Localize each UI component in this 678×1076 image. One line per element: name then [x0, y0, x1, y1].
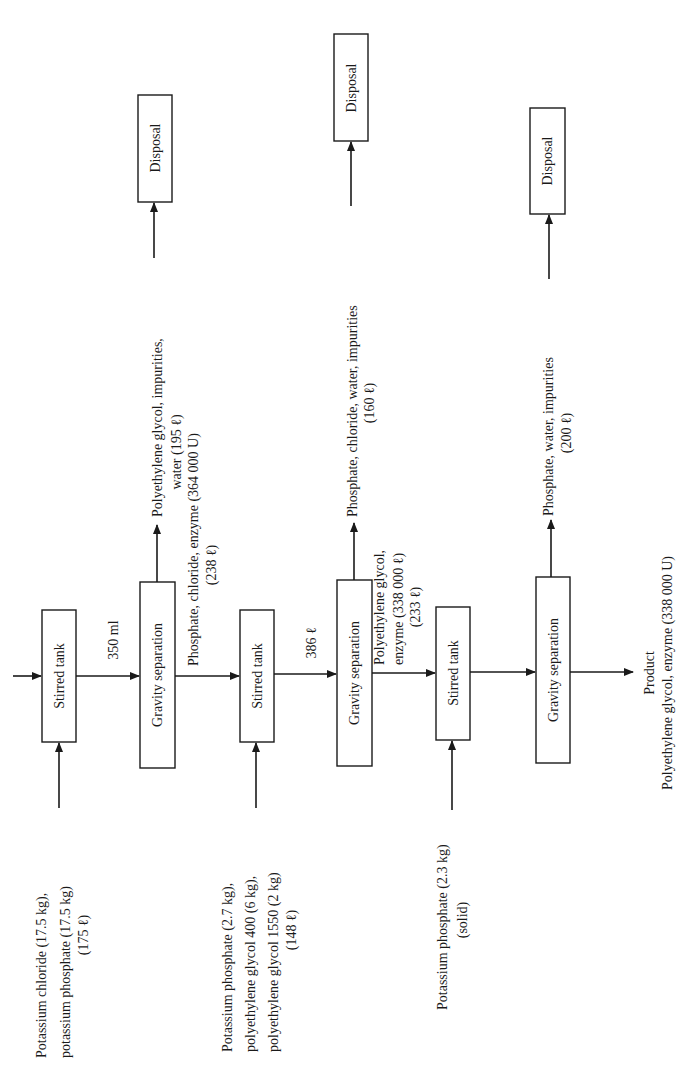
stream-233-line-2: enzyme (338 000 ℓ)	[391, 553, 407, 665]
gravity-separation-2: Gravity separation	[337, 580, 372, 766]
stirred-tank-1-label: Stirred tank	[52, 643, 67, 709]
feed-label-3: Potassium phosphate (2.3 kg) (solid)	[435, 844, 471, 1010]
waste-3-line-2: (200 ℓ)	[559, 412, 575, 453]
gravity-separation-2-label: Gravity separation	[347, 621, 362, 725]
stream-233-line-3: (233 ℓ)	[408, 586, 424, 627]
feed-1-line-3: (175 ℓ)	[76, 914, 92, 955]
process-flow-diagram: Stirred tank Gravity separation Stirred …	[0, 0, 678, 1076]
product-label: Product Polyethylene glycol, enzyme (338…	[642, 556, 676, 790]
stream-label-386l: 386 ℓ	[304, 627, 319, 659]
waste-label-2: Phosphate, chloride, water, impurities (…	[345, 305, 378, 517]
disposal-2-label: Disposal	[344, 63, 359, 112]
gravity-separation-3: Gravity separation	[536, 577, 570, 763]
feed-2-line-3: polyethylene glycol 1550 (2 kg)	[266, 872, 282, 1052]
gravity-separation-1: Gravity separation	[140, 582, 175, 768]
disposal-3: Disposal	[530, 108, 565, 214]
stream-238-line-2: (238 ℓ)	[204, 544, 220, 585]
disposal-2: Disposal	[334, 34, 368, 141]
product-title: Product	[642, 651, 657, 695]
stirred-tank-3: Stirred tank	[436, 607, 470, 740]
waste-label-3: Phosphate, water, impurities (200 ℓ)	[541, 357, 575, 516]
waste-1-line-1: Polyethylene glycol, impurities,	[150, 338, 165, 517]
feed-1-line-2: potassium phosphate (17.5 kg)	[58, 886, 74, 1058]
waste-label-1: Polyethylene glycol, impurities, water (…	[150, 338, 185, 517]
waste-2-line-2: (160 ℓ)	[362, 382, 378, 423]
feed-2-line-4: (148 ℓ)	[284, 909, 300, 950]
stream-238-line-1: Phosphate, chloride, enzyme (364 000 U)	[186, 433, 202, 666]
feed-label-2: Potassium phosphate (2.7 kg), polyethyle…	[220, 872, 300, 1052]
stirred-tank-2: Stirred tank	[240, 610, 274, 742]
disposal-3-label: Disposal	[540, 136, 555, 185]
stream-label-238l: Phosphate, chloride, enzyme (364 000 U) …	[186, 433, 220, 666]
feed-3-line-1: Potassium phosphate (2.3 kg)	[435, 844, 451, 1010]
disposal-1-label: Disposal	[148, 123, 163, 172]
stirred-tank-1: Stirred tank	[42, 610, 76, 742]
feed-2-line-1: Potassium phosphate (2.7 kg),	[220, 883, 236, 1052]
feed-2-line-2: polyethylene glycol 400 (6 kg),	[243, 876, 259, 1052]
feed-1-line-1: Potassium chloride (17.5 kg),	[34, 893, 50, 1058]
waste-1-line-2: water (195 ℓ)	[169, 414, 185, 489]
stirred-tank-3-label: Stirred tank	[446, 640, 461, 706]
stream-label-233l: Polyethylene glycol, enzyme (338 000 ℓ) …	[372, 550, 424, 665]
feed-3-line-2: (solid)	[455, 901, 471, 938]
stream-label-350ml: 350 ml	[106, 620, 121, 659]
gravity-separation-3-label: Gravity separation	[546, 618, 561, 722]
waste-2-line-1: Phosphate, chloride, water, impurities	[345, 305, 360, 517]
feed-label-1: Potassium chloride (17.5 kg), potassium …	[34, 886, 92, 1058]
product-description: Polyethylene glycol, enzyme (338 000 U)	[660, 556, 676, 790]
gravity-separation-1-label: Gravity separation	[150, 623, 165, 727]
disposal-1: Disposal	[138, 95, 172, 202]
stirred-tank-2-label: Stirred tank	[250, 643, 265, 709]
stream-233-line-1: Polyethylene glycol,	[372, 550, 387, 665]
waste-3-line-1: Phosphate, water, impurities	[541, 357, 556, 516]
